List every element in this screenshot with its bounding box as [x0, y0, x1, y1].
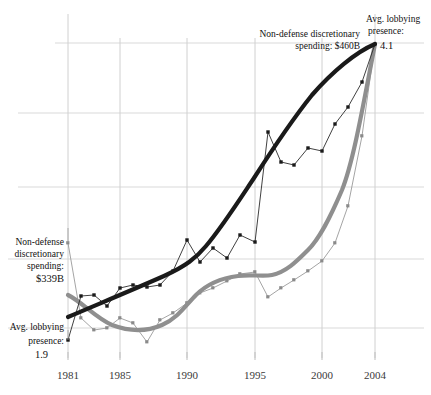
- x-tick-label-1995: 1995: [244, 369, 267, 381]
- marker: [92, 293, 95, 296]
- x-tick-label-1985: 1985: [109, 369, 132, 381]
- chart-figure: 1981 1985 1990 1995 2000 2004 Non-defens…: [0, 0, 431, 395]
- spending-trend-curve: [68, 44, 375, 317]
- x-tick-label-2000: 2000: [311, 369, 334, 381]
- marker: [92, 328, 95, 331]
- marker: [346, 105, 349, 108]
- chart-svg: 1981 1985 1990 1995 2000 2004 Non-defens…: [0, 0, 431, 395]
- x-tick-label-1990: 1990: [176, 369, 199, 381]
- marker: [211, 246, 214, 249]
- marker: [118, 316, 121, 319]
- marker: [131, 321, 134, 324]
- marker: [238, 233, 241, 236]
- marker: [105, 304, 108, 307]
- annotation-lobbying-end-value: 4.1: [380, 40, 393, 51]
- annotation-spending-end-line2: spending: $460B: [295, 41, 360, 51]
- annotation-spending-start-line3: spending:: [27, 261, 64, 271]
- annotation-lobbying-end-line2: presence:: [368, 26, 404, 36]
- annotation-lobbying-end-line1: Avg. lobbying: [366, 14, 420, 24]
- marker: [198, 260, 201, 263]
- marker: [253, 240, 256, 243]
- marker: [158, 283, 161, 286]
- spending-markers: [66, 80, 363, 341]
- marker: [185, 238, 188, 241]
- marker: [360, 80, 363, 83]
- marker: [105, 326, 108, 329]
- annotation-lobbying-start-line2: presence:: [28, 336, 64, 346]
- annotation-lobbying-start-line1: Avg. lobbying: [10, 322, 64, 332]
- marker: [292, 163, 295, 166]
- marker: [79, 294, 82, 297]
- annotation-spending-end: Non-defense discretionary spending: $460…: [259, 29, 360, 51]
- marker: [292, 278, 295, 281]
- grid-horizontal: [8, 43, 424, 328]
- marker: [266, 295, 269, 298]
- marker: [306, 269, 309, 272]
- annotation-spending-start-value: $339B: [36, 273, 64, 284]
- marker: [253, 270, 256, 273]
- marker: [333, 122, 336, 125]
- marker: [346, 204, 349, 207]
- annotation-lobbying-start-value: 1.9: [35, 349, 48, 360]
- x-axis-ticks: [68, 352, 375, 360]
- annotation-spending-end-line1: Non-defense discretionary: [259, 29, 360, 39]
- marker: [266, 130, 269, 133]
- marker: [131, 283, 134, 286]
- marker: [118, 286, 121, 289]
- annotation-lobbying-start: Avg. lobbying presence: 1.9: [10, 322, 64, 360]
- marker: [360, 134, 363, 137]
- grid-vertical: [68, 14, 375, 358]
- annotation-spending-start-line2: discretionary: [14, 249, 64, 259]
- x-tick-label-1981: 1981: [57, 369, 79, 381]
- annotation-spending-start-line1: Non-defense: [15, 237, 64, 247]
- marker: [225, 256, 228, 259]
- annotation-spending-start: Non-defense discretionary spending: $339…: [14, 237, 64, 284]
- marker: [79, 316, 82, 319]
- marker: [279, 286, 282, 289]
- x-axis-labels: 1981 1985 1990 1995 2000 2004: [57, 369, 387, 381]
- marker: [320, 149, 323, 152]
- x-tick-label-2004: 2004: [364, 369, 387, 381]
- marker: [320, 259, 323, 262]
- marker: [145, 340, 148, 343]
- marker: [171, 311, 174, 314]
- marker: [211, 286, 214, 289]
- marker: [279, 160, 282, 163]
- marker: [158, 318, 161, 321]
- marker: [306, 146, 309, 149]
- marker: [333, 241, 336, 244]
